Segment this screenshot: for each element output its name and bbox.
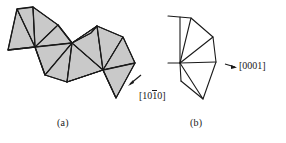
panel-b-shape — [168, 16, 216, 99]
direction-label-0001: [0001] — [239, 60, 266, 71]
panel-b-rim — [168, 16, 216, 99]
panel-a-shape — [8, 7, 135, 98]
panel-caption-b: (b) — [190, 117, 202, 128]
label-1010-suffix: 0] — [157, 90, 165, 101]
spoke-b4 — [180, 63, 203, 99]
panel-caption-a: (a) — [57, 117, 69, 128]
arrow-to-label-1010 — [128, 75, 141, 86]
label-1010-prefix: [10 — [139, 90, 152, 101]
direction-label-1010: [1010] — [139, 90, 166, 101]
panel-a-faces — [8, 7, 135, 98]
arrow-to-label-0001 — [225, 64, 237, 69]
spoke-b5 — [180, 63, 181, 81]
figure-container: [1010] [0001] (a) (b) — [0, 0, 286, 143]
figure-drawing — [0, 0, 286, 143]
spoke-b3 — [180, 62, 216, 63]
